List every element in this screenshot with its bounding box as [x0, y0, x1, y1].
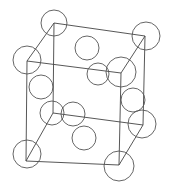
edge-top_back_left-bottom_back_left	[53, 23, 54, 113]
atom-corner-top-back-right	[132, 22, 160, 50]
edge-bottom_back_left-bottom_back_right	[53, 113, 143, 125]
atom-corner-bottom-front-left	[13, 140, 41, 168]
edge-top_front_left-bottom_front_left	[26, 61, 27, 161]
atoms	[13, 10, 160, 181]
edge-bottom_back_right-bottom_front_right	[119, 125, 143, 165]
edge-bottom_back_left-bottom_front_left	[26, 113, 53, 161]
unit-cell-diagram	[0, 0, 169, 190]
edge-top_back_left-top_back_right	[54, 23, 145, 36]
atom-corner-bottom-back-left	[40, 101, 64, 125]
cell-edges	[26, 23, 145, 165]
atom-face-back-lower	[61, 102, 85, 126]
atom-face-top	[75, 36, 99, 60]
atom-face-left-upper	[29, 75, 53, 99]
atom-face-bottom	[72, 126, 96, 150]
atom-face-right-upper	[121, 88, 145, 112]
